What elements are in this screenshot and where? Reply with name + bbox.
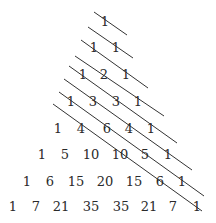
triangle-entry: 10 xyxy=(112,148,129,161)
triangle-entry: 7 xyxy=(169,200,177,213)
triangle-entry: 4 xyxy=(125,122,133,135)
triangle-entry: 2 xyxy=(100,68,108,81)
diagonal-lines xyxy=(0,0,216,223)
triangle-entry: 5 xyxy=(141,148,149,161)
triangle-entry: 7 xyxy=(32,200,40,213)
triangle-entry: 1 xyxy=(38,148,46,161)
triangle-entry: 20 xyxy=(97,175,114,188)
triangle-entry: 6 xyxy=(156,175,164,188)
triangle-entry: 5 xyxy=(61,148,69,161)
triangle-entry: 1 xyxy=(54,122,62,135)
triangle-entry: 21 xyxy=(53,200,70,213)
triangle-entry: 1 xyxy=(112,41,120,54)
triangle-entry: 10 xyxy=(83,148,100,161)
triangle-entry: 4 xyxy=(77,122,85,135)
triangle-entry: 1 xyxy=(178,175,186,188)
triangle-entry: 1 xyxy=(147,122,155,135)
triangle-entry: 1 xyxy=(79,68,87,81)
triangle-entry: 1 xyxy=(164,148,172,161)
diagonal-line xyxy=(94,12,127,35)
triangle-entry: 1 xyxy=(23,175,31,188)
triangle-entry: 1 xyxy=(122,68,130,81)
triangle-entry: 1 xyxy=(67,95,75,108)
triangle-entry: 35 xyxy=(113,200,130,213)
triangle-entry: 1 xyxy=(193,200,201,213)
triangle-entry: 3 xyxy=(89,95,97,108)
triangle-entry: 35 xyxy=(83,200,100,213)
triangle-entry: 6 xyxy=(46,175,54,188)
triangle-entry: 6 xyxy=(103,122,111,135)
triangle-entry: 1 xyxy=(134,95,142,108)
triangle-entry: 21 xyxy=(141,200,158,213)
triangle-entry: 1 xyxy=(90,41,98,54)
triangle-entry: 15 xyxy=(126,175,143,188)
triangle-entry: 3 xyxy=(112,95,120,108)
pascal-triangle-diagram: 1111211331146411510105116152015611721353… xyxy=(0,0,216,223)
triangle-entry: 15 xyxy=(68,175,85,188)
triangle-entry: 1 xyxy=(9,200,17,213)
triangle-entry: 1 xyxy=(101,15,109,28)
